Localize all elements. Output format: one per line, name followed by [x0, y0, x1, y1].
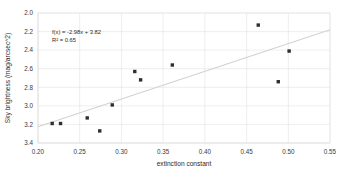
trendline-group	[38, 30, 330, 127]
x-tick-label: 0.40	[199, 148, 212, 155]
data-point-marker	[139, 78, 142, 81]
x-tick-label: 0.35	[157, 148, 170, 155]
x-tick-label: 0.45	[240, 148, 253, 155]
x-tick-label: 0.50	[282, 148, 295, 155]
data-point-marker	[257, 23, 260, 26]
x-tick-label: 0.55	[324, 148, 337, 155]
data-point-marker	[171, 63, 174, 66]
x-tick-label: 0.20	[32, 148, 45, 155]
data-point-marker	[277, 80, 280, 83]
data-point-marker	[50, 122, 53, 125]
x-axis-title: extinction constant	[157, 160, 212, 167]
data-point-marker	[133, 70, 136, 73]
regression-trendline	[38, 30, 330, 127]
data-point-marker	[98, 129, 101, 132]
regression-equation-label: f(x) = -2.98x + 3.82	[52, 29, 101, 35]
y-tick-label: 3.4	[24, 139, 33, 146]
plot-canvas: 0.200.250.300.350.400.450.500.55 2.02.22…	[0, 0, 345, 180]
data-point-marker	[111, 103, 114, 106]
y-tick-label: 3.0	[24, 102, 33, 109]
x-tick-label: 0.30	[115, 148, 128, 155]
y-tick-label: 3.2	[24, 121, 33, 128]
r-squared-label: R² = 0.65	[52, 37, 76, 43]
data-point-marker	[59, 122, 62, 125]
y-tick-label: 2.6	[24, 65, 33, 72]
x-tick-label: 0.25	[74, 148, 87, 155]
x-tick-labels-group: 0.200.250.300.350.400.450.500.55	[32, 148, 337, 155]
data-point-marker	[287, 49, 290, 52]
y-tick-label: 2.4	[24, 46, 33, 53]
y-axis-title: Sky brightness (mag/arcsec^2)	[4, 33, 12, 123]
y-tick-labels-group: 2.02.22.42.62.83.03.23.4	[24, 9, 33, 146]
scatter-plot-figure: 0.200.250.300.350.400.450.500.55 2.02.22…	[0, 0, 345, 180]
y-tick-label: 2.8	[24, 84, 33, 91]
data-point-marker	[86, 116, 89, 119]
data-markers-group	[50, 23, 290, 132]
y-tick-label: 2.0	[24, 9, 33, 16]
y-tick-label: 2.2	[24, 28, 33, 35]
